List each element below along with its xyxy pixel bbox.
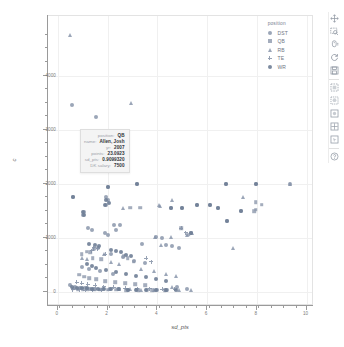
data-point-qb[interactable] [88,250,92,254]
data-point-rb[interactable] [159,243,163,247]
data-point-rb[interactable] [241,195,245,199]
data-point-rb[interactable] [174,274,178,278]
data-point-rb[interactable] [85,257,89,261]
data-point-dst[interactable] [239,209,243,213]
data-point-wr[interactable] [164,279,168,283]
box-zoom-icon[interactable] [328,25,341,38]
data-point-te[interactable] [135,287,139,291]
data-point-dst[interactable] [116,287,120,291]
data-point-dst[interactable] [121,255,125,259]
data-point-dst[interactable] [169,206,173,210]
data-point-dst[interactable] [112,223,116,227]
data-point-te[interactable] [96,247,100,251]
data-point-wr[interactable] [85,262,89,266]
data-point-wr[interactable] [85,286,89,290]
data-point-dst[interactable] [94,115,98,119]
data-point-te[interactable] [80,281,84,285]
data-point-te[interactable] [144,256,148,260]
data-point-te[interactable] [173,287,177,291]
data-point-qb[interactable] [260,203,264,207]
data-point-wr[interactable] [208,203,212,207]
data-point-wr[interactable] [80,286,84,290]
data-point-qb[interactable] [179,226,183,230]
data-point-te[interactable] [148,287,152,291]
data-point-dst[interactable] [180,206,184,210]
data-point-te[interactable] [75,280,79,284]
data-point-dst[interactable] [96,246,100,250]
data-point-qb[interactable] [92,288,96,292]
data-point-wr[interactable] [195,203,199,207]
data-point-wr[interactable] [180,206,184,210]
data-point-rb[interactable] [72,286,76,290]
data-point-dst[interactable] [189,231,193,235]
data-point-rb[interactable] [121,206,125,210]
data-point-dst[interactable] [68,283,72,287]
data-point-te[interactable] [184,231,188,235]
data-point-qb[interactable] [76,287,80,291]
data-point-dst[interactable] [101,287,105,291]
data-point-rb[interactable] [170,198,174,202]
data-point-rb[interactable] [91,287,95,291]
data-point-rb[interactable] [78,286,82,290]
legend-item-qb[interactable]: QB [265,37,288,46]
data-point-rb[interactable] [158,204,162,208]
data-point-wr[interactable] [70,285,74,289]
data-point-dst[interactable] [164,243,168,247]
data-point-te[interactable] [149,260,153,264]
data-point-dst[interactable] [185,287,189,291]
data-point-dst[interactable] [216,206,220,210]
data-point-te[interactable] [86,282,90,286]
data-point-rb[interactable] [170,285,174,289]
data-point-wr[interactable] [75,286,79,290]
data-point-qb[interactable] [132,260,136,264]
data-point-wr[interactable] [144,275,148,279]
data-point-dst[interactable] [78,286,82,290]
data-point-qb[interactable] [80,252,84,256]
plot-toolbar[interactable] [326,12,343,163]
legend-item-te[interactable]: TE [265,54,288,63]
data-point-qb[interactable] [123,281,127,285]
data-point-qb[interactable] [71,287,75,291]
data-point-rb[interactable] [185,233,189,237]
data-point-wr[interactable] [124,272,128,276]
data-point-qb[interactable] [98,288,102,292]
data-point-wr[interactable] [239,209,243,213]
data-point-te[interactable] [90,249,94,253]
data-point-dst[interactable] [70,103,74,107]
data-point-dst[interactable] [111,272,115,276]
data-point-wr[interactable] [94,266,98,270]
data-point-dst[interactable] [103,231,107,235]
data-point-dst[interactable] [86,226,90,230]
data-point-qb[interactable] [95,278,99,282]
data-point-rb[interactable] [128,287,132,291]
legend-item-dst[interactable]: DST [265,29,288,38]
data-point-dst[interactable] [80,265,84,269]
data-point-wr[interactable] [134,274,138,278]
crosshair-icon[interactable] [328,120,341,133]
data-point-te[interactable] [93,283,97,287]
data-point-wr[interactable] [216,206,220,210]
move-icon[interactable] [328,12,341,25]
data-point-wr[interactable] [102,287,106,291]
data-point-qb[interactable] [103,279,107,283]
data-point-dst[interactable] [177,246,181,250]
data-point-te[interactable] [160,287,164,291]
data-point-rb[interactable] [117,287,121,291]
data-point-wr[interactable] [119,250,123,254]
data-point-rb[interactable] [102,252,106,256]
data-point-qb[interactable] [143,284,147,288]
wheel-zoom-icon[interactable] [328,38,341,51]
lasso-icon[interactable] [328,94,341,107]
data-point-wr[interactable] [109,287,113,291]
data-point-dst[interactable] [195,203,199,207]
data-point-dst[interactable] [118,223,122,227]
data-point-dst[interactable] [225,219,229,223]
data-point-wr[interactable] [81,210,85,214]
data-point-wr[interactable] [97,244,101,248]
data-point-qb[interactable] [100,258,104,262]
data-point-rb[interactable] [85,286,89,290]
data-point-dst[interactable] [83,286,87,290]
data-point-qb[interactable] [113,280,117,284]
data-point-qb[interactable] [81,287,85,291]
legend[interactable]: position DSTQBRBTEWR [261,18,292,74]
